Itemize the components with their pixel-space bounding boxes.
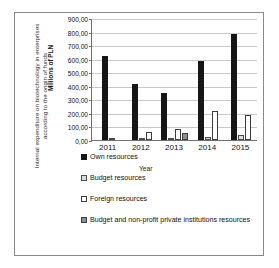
y-tick-label: 300,00 xyxy=(68,97,88,104)
bar[interactable] xyxy=(245,115,251,140)
x-tick-label: 2014 xyxy=(198,143,216,152)
y-axis-tick-labels: 900,00800,00700,00600,00500,00400,00300,… xyxy=(55,19,89,141)
legend-item[interactable]: Budget and non-profit private institutio… xyxy=(81,216,261,225)
legend-item[interactable]: Foreign resources xyxy=(81,195,261,204)
legend-swatch-black xyxy=(81,154,87,160)
bar[interactable] xyxy=(182,133,188,140)
bar[interactable] xyxy=(231,34,237,140)
y-tick-label: 200,00 xyxy=(68,110,88,117)
bar-group xyxy=(125,19,158,140)
legend-swatch-light-gray xyxy=(81,175,87,181)
bar-group xyxy=(92,19,125,140)
bar-group xyxy=(192,19,225,140)
y-axis-tick xyxy=(89,141,92,142)
legend-item[interactable]: Own resources xyxy=(81,153,261,162)
legend-swatch-white xyxy=(81,196,87,202)
bar[interactable] xyxy=(175,129,181,140)
y-tick-label: 0,00 xyxy=(75,138,88,145)
bar[interactable] xyxy=(205,137,211,140)
legend-item-label: Own resources xyxy=(90,153,138,162)
chart-figure: Internal expenditure on biotechnology in… xyxy=(14,12,264,256)
y-tick-label: 400,00 xyxy=(68,83,88,90)
x-tick-label: 2012 xyxy=(132,143,150,152)
y-tick-label: 500,00 xyxy=(68,70,88,77)
y-tick-label: 900,00 xyxy=(68,16,88,23)
legend-item-label: Budget and non-profit private institutio… xyxy=(90,216,250,225)
bar[interactable] xyxy=(212,111,218,140)
bar[interactable] xyxy=(161,93,167,140)
bar-group xyxy=(225,19,258,140)
y-tick-label: 700,00 xyxy=(68,43,88,50)
x-tick-label: 2011 xyxy=(99,143,116,152)
bar-series-container xyxy=(92,19,257,140)
y-tick-label: 800,00 xyxy=(68,29,88,36)
plot-area xyxy=(91,19,257,141)
bar[interactable] xyxy=(168,138,174,140)
bar[interactable] xyxy=(198,61,204,140)
y-tick-label: 100,00 xyxy=(68,124,88,131)
legend-item-label: Budget resources xyxy=(90,174,146,183)
bar[interactable] xyxy=(146,132,152,140)
x-tick-label: 2013 xyxy=(165,143,183,152)
bar[interactable] xyxy=(102,56,108,140)
y-tick-label: 600,00 xyxy=(68,56,88,63)
plot-area-wrapper: 900,00800,00700,00600,00500,00400,00300,… xyxy=(55,19,260,155)
legend-swatch-mid-gray xyxy=(81,217,87,223)
bar-group xyxy=(158,19,191,140)
bar[interactable] xyxy=(139,138,145,140)
legend-item[interactable]: Budget resources xyxy=(81,174,261,183)
x-tick-label: 2015 xyxy=(231,143,249,152)
bar[interactable] xyxy=(132,84,138,140)
bar[interactable] xyxy=(109,138,115,140)
legend-item-label: Foreign resources xyxy=(90,195,147,204)
chart-legend: Own resourcesBudget resourcesForeign res… xyxy=(81,153,261,237)
bar[interactable] xyxy=(238,135,244,140)
